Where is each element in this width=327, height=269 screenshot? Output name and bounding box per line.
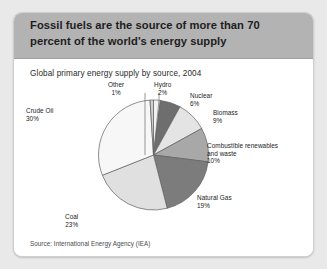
pie-label-hydro-value: 2% <box>154 89 171 97</box>
pie-chart: Other 1% Hydro 2% Nuclear 6% Biomass 9% … <box>14 81 313 241</box>
chart-subtitle: Global primary energy supply by source, … <box>30 69 201 78</box>
pie-label-biomass-name: Biomass <box>213 109 238 117</box>
pie-label-natural-gas: Natural Gas 19% <box>197 194 232 209</box>
pie-label-combustible-renewables: Combustible renewables and waste 10% <box>207 142 278 165</box>
pie-label-natural-gas-value: 19% <box>197 202 232 210</box>
card-header: Fossil fuels are the source of more than… <box>14 13 313 59</box>
pie-label-biomass: Biomass 9% <box>213 109 238 124</box>
pie-label-other-value: 1% <box>108 89 124 97</box>
card-body: Global primary energy supply by source, … <box>14 59 313 256</box>
pie-label-coal-value: 23% <box>65 221 78 229</box>
pie-label-hydro: Hydro 2% <box>154 81 171 96</box>
page-title: Fossil fuels are the source of more than… <box>30 18 297 49</box>
pie-label-other-name: Other <box>108 81 124 89</box>
pie-label-crw-value: 10% <box>207 157 278 165</box>
pie-label-biomass-value: 9% <box>213 117 238 125</box>
pie-label-crude-oil-value: 30% <box>26 115 53 123</box>
pie-label-coal-name: Coal <box>65 213 78 221</box>
pie-label-nuclear: Nuclear 6% <box>190 92 212 107</box>
pie-label-other: Other 1% <box>108 81 124 96</box>
pie-label-hydro-name: Hydro <box>154 81 171 89</box>
pie-label-crw-name-line2: and waste <box>207 150 278 158</box>
pie-label-crude-oil: Crude Oil 30% <box>26 107 53 122</box>
pie-label-crude-oil-name: Crude Oil <box>26 107 53 115</box>
pie-label-coal: Coal 23% <box>65 213 78 228</box>
pie-label-nuclear-value: 6% <box>190 100 212 108</box>
pie-label-nuclear-name: Nuclear <box>190 92 212 100</box>
pie-label-crw-name-line1: Combustible renewables <box>207 142 278 150</box>
source-note: Source: International Energy Agency (IEA… <box>30 240 150 247</box>
pie-label-natural-gas-name: Natural Gas <box>197 194 232 202</box>
figure-card: Fossil fuels are the source of more than… <box>13 12 314 257</box>
